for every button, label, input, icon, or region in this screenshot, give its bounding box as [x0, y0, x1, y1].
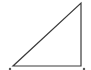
vertex-bottom-left-mark	[9, 68, 11, 70]
right-triangle	[13, 3, 81, 66]
triangle-diagram	[0, 0, 91, 70]
vertex-bottom-right-mark	[83, 68, 85, 70]
